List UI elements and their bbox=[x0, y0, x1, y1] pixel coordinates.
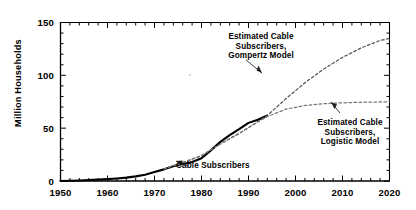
x-tick-label-1: 1960 bbox=[96, 187, 118, 198]
x-tick-label-5: 2000 bbox=[284, 187, 306, 198]
annotation-leaders bbox=[176, 60, 340, 166]
x-tick-label-7: 2020 bbox=[378, 187, 400, 198]
annotation-logistic: Estimated Cable Subscribers, Logistic Mo… bbox=[294, 118, 406, 147]
y-tick-label-0: 0 bbox=[48, 176, 54, 187]
annotation-gompertz: Estimated Cable Subscribers, Gompertz Mo… bbox=[201, 32, 321, 61]
annotation-cable-subscribers: Cable Subscribers bbox=[176, 161, 286, 171]
x-tick-label-6: 2010 bbox=[331, 187, 353, 198]
series-line-0 bbox=[61, 115, 268, 181]
annotation-gompertz-line1: Estimated Cable bbox=[201, 32, 321, 42]
y-tick-label-3: 150 bbox=[37, 17, 54, 28]
x-tick-label-2: 1970 bbox=[143, 187, 165, 198]
annotation-logistic-line3: Logistic Model bbox=[294, 137, 406, 147]
cable-subscribers-chart: 1950196019701980199020002010202005010015… bbox=[0, 0, 416, 210]
annotation-logistic-line1: Estimated Cable bbox=[294, 118, 406, 128]
annotation-gompertz-line2: Subscribers, bbox=[201, 42, 321, 52]
y-axis-label: Million Households bbox=[13, 21, 23, 145]
y-tick-label-1: 50 bbox=[43, 123, 54, 134]
x-tick-label-4: 1990 bbox=[237, 187, 259, 198]
annotation-logistic-line2: Subscribers, bbox=[294, 128, 406, 138]
y-tick-label-2: 100 bbox=[37, 70, 54, 81]
x-tick-label-0: 1950 bbox=[49, 187, 71, 198]
x-tick-label-3: 1980 bbox=[190, 187, 212, 198]
annotation-gompertz-line3: Gompertz Model bbox=[201, 51, 321, 61]
